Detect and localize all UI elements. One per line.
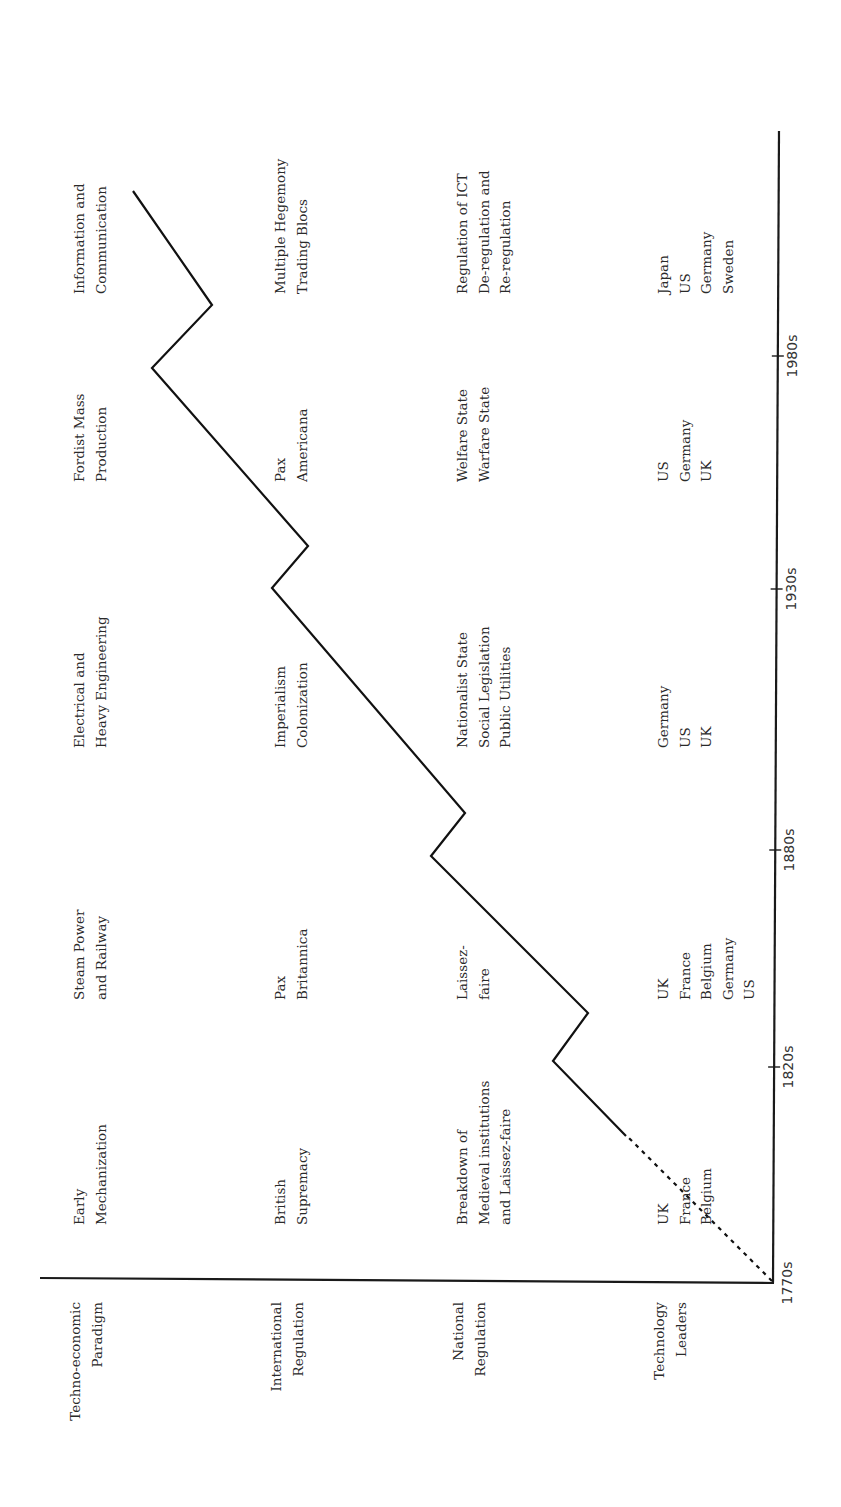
leaders-cell: JapanUSGermanySweden bbox=[655, 231, 736, 296]
row-header-line: Leaders bbox=[673, 1302, 689, 1357]
paradigm-text-line: Early bbox=[71, 1188, 87, 1225]
paradigm-cell: Electrical andHeavy Engineering bbox=[71, 616, 109, 748]
row-header-line: Paradigm bbox=[89, 1302, 105, 1368]
national-text-line: Welfare State bbox=[454, 389, 470, 482]
leaders-text-line: Germany bbox=[720, 937, 736, 1000]
row-header-line: National bbox=[450, 1302, 466, 1361]
national-text-line: Warfare State bbox=[476, 387, 492, 482]
international-text-line: Pax bbox=[272, 457, 288, 482]
period-column-4: Fordist MassProductionPaxAmericanaWelfar… bbox=[71, 387, 714, 483]
row-header-international: InternationalRegulation bbox=[268, 1302, 306, 1392]
period-columns: EarlyMechanizationBritishSupremacyBreakd… bbox=[71, 158, 757, 1225]
row-header-leaders: TechnologyLeaders bbox=[651, 1302, 689, 1380]
leaders-text-line: Sweden bbox=[720, 240, 736, 294]
national-cell: Regulation of ICTDe-regulation andRe-reg… bbox=[454, 170, 513, 294]
international-cell: ImperialismColonization bbox=[272, 662, 310, 748]
long-wave-diagram: 1770s1820s1880s1930s1980s Techno-economi… bbox=[0, 0, 841, 1507]
paradigm-text-line: Fordist Mass bbox=[71, 393, 87, 482]
national-cell: Welfare StateWarfare State bbox=[454, 387, 492, 482]
national-text-line: Re-regulation bbox=[497, 200, 513, 294]
period-column-2: Steam Powerand RailwayPaxBritannicaLaiss… bbox=[71, 909, 757, 1000]
leaders-text-line: UK bbox=[655, 1203, 671, 1225]
leaders-text-line: US bbox=[677, 273, 693, 294]
national-text-line: and Laissez-faire bbox=[497, 1109, 513, 1225]
national-text-line: Medieval institutions bbox=[476, 1081, 492, 1225]
paradigm-text-line: Steam Power bbox=[71, 909, 87, 1000]
leaders-text-line: France bbox=[677, 1177, 693, 1225]
international-text-line: British bbox=[272, 1179, 288, 1225]
national-text-line: De-regulation and bbox=[476, 170, 492, 294]
leaders-cell: UKFranceBelgium bbox=[655, 1168, 714, 1225]
leaders-text-line: Germany bbox=[698, 231, 714, 294]
leaders-text-line: Germany bbox=[655, 685, 671, 748]
leaders-text-line: Germany bbox=[677, 419, 693, 482]
tick-label-1820s: 1820s bbox=[780, 1046, 796, 1089]
leaders-cell: GermanyUSUK bbox=[655, 685, 714, 748]
row-headers: Techno-economicParadigmInternationalRegu… bbox=[67, 1302, 689, 1421]
row-header-line: Technology bbox=[651, 1302, 667, 1380]
international-text-line: Trading Blocs bbox=[294, 199, 310, 294]
leaders-text-line: UK bbox=[698, 460, 714, 482]
leaders-text-line: France bbox=[677, 952, 693, 1000]
national-text-line: Social Legislation bbox=[476, 626, 492, 748]
tick-label-1930s: 1930s bbox=[783, 568, 799, 611]
international-text-line: Multiple Hegemony bbox=[272, 158, 288, 294]
paradigm-cell: Steam Powerand Railway bbox=[71, 909, 109, 1000]
international-text-line: Pax bbox=[272, 975, 288, 1000]
row-header-line: Regulation bbox=[472, 1302, 488, 1377]
leaders-text-line: Belgium bbox=[698, 1168, 714, 1225]
time-axis-line bbox=[773, 131, 779, 1283]
international-cell: PaxBritannica bbox=[272, 929, 310, 1000]
row-header-line: Regulation bbox=[290, 1302, 306, 1377]
leaders-text-line: UK bbox=[655, 978, 671, 1000]
period-column-1: EarlyMechanizationBritishSupremacyBreakd… bbox=[71, 1081, 714, 1225]
leaders-text-line: Belgium bbox=[698, 943, 714, 1000]
paradigm-text-line: Mechanization bbox=[93, 1124, 109, 1225]
paradigm-text-line: and Railway bbox=[93, 916, 109, 1000]
tick-label-1770s: 1770s bbox=[779, 1262, 795, 1305]
leaders-text-line: UK bbox=[698, 726, 714, 748]
leaders-text-line: US bbox=[655, 461, 671, 482]
paradigm-text-line: Heavy Engineering bbox=[93, 616, 109, 748]
paradigm-cell: EarlyMechanization bbox=[71, 1124, 109, 1225]
national-cell: Laissez-faire bbox=[454, 945, 492, 1000]
national-text-line: Public Utilities bbox=[497, 647, 513, 748]
wave-solid-segment bbox=[133, 191, 626, 1136]
international-text-line: Imperialism bbox=[272, 666, 288, 748]
period-column-5: Information andCommunicationMultiple Heg… bbox=[71, 158, 736, 296]
leaders-text-line: Japan bbox=[655, 255, 671, 296]
leaders-cell: USGermanyUK bbox=[655, 419, 714, 482]
national-text-line: Nationalist State bbox=[454, 632, 470, 748]
international-text-line: Colonization bbox=[294, 662, 310, 748]
paradigm-cell: Information andCommunication bbox=[71, 183, 109, 294]
paradigm-text-line: Electrical and bbox=[71, 652, 87, 748]
international-cell: BritishSupremacy bbox=[272, 1148, 310, 1225]
international-text-line: Supremacy bbox=[294, 1148, 310, 1225]
international-cell: Multiple HegemonyTrading Blocs bbox=[272, 158, 310, 294]
national-text-line: faire bbox=[476, 968, 492, 1000]
national-text-line: Laissez- bbox=[454, 945, 470, 1000]
paradigm-cell: Fordist MassProduction bbox=[71, 393, 109, 482]
row-header-line: Techno-economic bbox=[67, 1302, 83, 1421]
row-header-national: NationalRegulation bbox=[450, 1302, 488, 1377]
tick-label-1880s: 1880s bbox=[781, 829, 797, 872]
leaders-cell: UKFranceBelgiumGermanyUS bbox=[655, 937, 757, 1000]
leaders-text-line: US bbox=[741, 979, 757, 1000]
row-header-paradigm: Techno-economicParadigm bbox=[67, 1302, 105, 1421]
national-text-line: Breakdown of bbox=[454, 1129, 470, 1225]
paradigm-text-line: Communication bbox=[93, 186, 109, 294]
national-cell: Breakdown ofMedieval institutionsand Lai… bbox=[454, 1081, 513, 1225]
row-header-line: International bbox=[268, 1302, 284, 1392]
baseline-axis-line bbox=[40, 1278, 774, 1283]
paradigm-text-line: Information and bbox=[71, 183, 87, 294]
paradigm-text-line: Production bbox=[93, 407, 109, 482]
international-cell: PaxAmericana bbox=[272, 408, 310, 483]
international-text-line: Americana bbox=[294, 408, 310, 483]
leaders-text-line: US bbox=[677, 727, 693, 748]
national-cell: Nationalist StateSocial LegislationPubli… bbox=[454, 626, 513, 748]
international-text-line: Britannica bbox=[294, 929, 310, 1000]
tick-label-1980s: 1980s bbox=[784, 335, 800, 378]
national-text-line: Regulation of ICT bbox=[454, 173, 470, 294]
